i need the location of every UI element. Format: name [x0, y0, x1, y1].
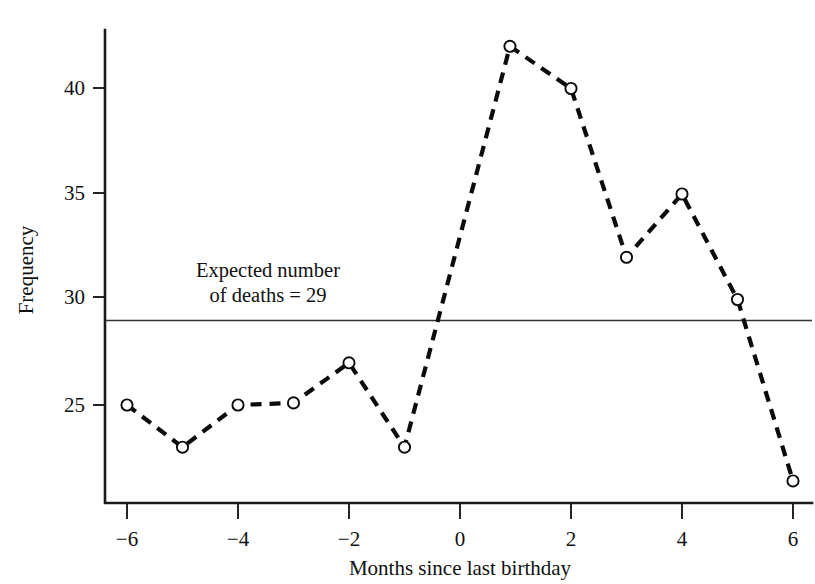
x-tick-label-2: 2 [566, 527, 577, 551]
x-tick-label-6: 6 [788, 527, 799, 551]
annotation-line-2: of deaths = 29 [210, 284, 327, 306]
line-chart: 40 35 30 25 −6 −4 −2 0 2 4 6 Months sinc… [0, 0, 815, 584]
data-point-marker [232, 399, 243, 410]
data-point-marker [565, 83, 576, 94]
data-point-marker [177, 442, 188, 453]
data-point-marker [121, 399, 132, 410]
expected-deaths-annotation: Expected number of deaths = 29 [196, 259, 340, 306]
x-tick-label--4: −4 [227, 527, 250, 551]
x-axis-title: Months since last birthday [349, 556, 572, 580]
data-point-marker [732, 294, 743, 305]
data-point-marker [399, 442, 410, 453]
y-tick-label-30: 30 [64, 285, 85, 309]
y-axis-ticks [93, 88, 105, 405]
data-point-marker [676, 188, 687, 199]
chart-figure: 40 35 30 25 −6 −4 −2 0 2 4 6 Months sinc… [0, 0, 815, 584]
x-tick-label-0: 0 [455, 527, 466, 551]
y-axis-tick-labels: 40 35 30 25 [64, 76, 85, 417]
x-tick-label--6: −6 [116, 527, 138, 551]
x-axis-tick-labels: −6 −4 −2 0 2 4 6 [116, 527, 798, 551]
x-axis-ticks [127, 503, 793, 519]
data-point-marker [343, 357, 354, 368]
data-point-marker [787, 475, 798, 486]
data-point-marker [288, 397, 299, 408]
x-tick-label--2: −2 [338, 527, 360, 551]
y-tick-label-25: 25 [64, 393, 85, 417]
annotation-line-1: Expected number [196, 259, 340, 282]
data-point-marker [621, 252, 632, 263]
y-axis-title: Frequency [14, 225, 38, 314]
y-tick-label-35: 35 [64, 181, 85, 205]
data-point-marker [504, 41, 515, 52]
y-tick-label-40: 40 [64, 76, 85, 100]
x-tick-label-4: 4 [677, 527, 688, 551]
